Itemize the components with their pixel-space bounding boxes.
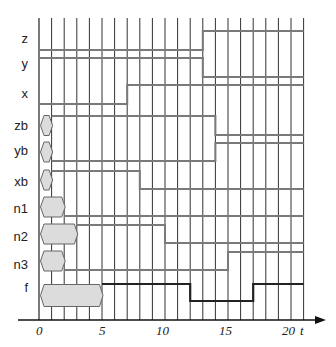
signal-label-f: f [24,280,28,295]
unknown-state-f [41,285,104,307]
signal-label-yb: yb [14,143,28,158]
unknown-state-n2 [41,224,78,244]
axis-tick-20: 20 [282,323,296,338]
axis-arrow-icon [315,316,326,324]
timing-diagram: zyxzbybxbn1n2n3f 05101520t [0,0,336,347]
axis-tick-5: 5 [99,323,106,338]
signal-label-z: z [22,31,29,46]
waveform-n3 [64,252,303,270]
waveform-x [39,85,304,104]
signal-label-xb: xb [14,174,28,189]
axis-tick-10: 10 [156,323,170,338]
unknown-state-yb [41,142,53,162]
unknown-state-zb [41,116,53,136]
signal-labels: zyxzbybxbn1n2n3f [14,31,29,295]
waveforms [39,31,304,307]
signal-label-y: y [22,56,29,71]
signal-label-zb: zb [14,118,28,133]
signal-label-n3: n3 [14,257,28,272]
time-grid [39,18,304,320]
signal-label-n2: n2 [14,229,28,244]
unknown-state-xb [41,170,53,190]
signal-label-x: x [22,86,29,101]
axis-tick-15: 15 [219,323,233,338]
axis-tick-0: 0 [36,323,43,338]
waveform-y [39,58,304,77]
waveform-z [39,31,304,50]
unknown-state-n3 [41,251,66,271]
axis-label: t [300,323,304,338]
unknown-state-n1 [41,197,66,217]
signal-label-n1: n1 [14,201,28,216]
